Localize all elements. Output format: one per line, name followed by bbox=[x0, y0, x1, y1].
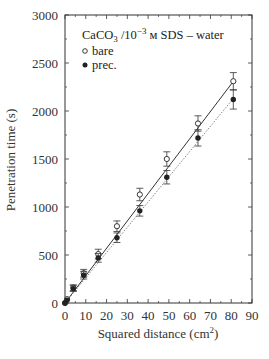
fit-line-bare bbox=[65, 81, 233, 303]
x-tick-label: 10 bbox=[79, 308, 92, 323]
x-tick-label: 30 bbox=[121, 308, 134, 323]
data-point bbox=[113, 221, 120, 232]
y-tick-label: 2000 bbox=[32, 104, 58, 119]
x-tick-label: 20 bbox=[100, 308, 113, 323]
filled-circle-marker-icon bbox=[81, 272, 86, 277]
data-point bbox=[113, 233, 120, 243]
open-circle-marker-icon bbox=[114, 224, 119, 229]
x-tick-label: 70 bbox=[204, 308, 217, 323]
x-axis-title: Squared distance (cm2) bbox=[98, 325, 219, 341]
data-point bbox=[230, 73, 237, 90]
legend-label-prec: prec. bbox=[92, 58, 117, 72]
filled-circle-marker-icon bbox=[164, 175, 169, 180]
y-tick-label: 1000 bbox=[32, 200, 58, 215]
data-point bbox=[136, 188, 143, 200]
data-point bbox=[194, 130, 201, 146]
x-tick-label: 90 bbox=[246, 308, 259, 323]
data-point bbox=[230, 90, 237, 109]
y-tick-label: 2500 bbox=[32, 56, 58, 71]
filled-circle-marker-icon bbox=[114, 235, 119, 240]
y-axis-title: Penetration time (s) bbox=[3, 109, 18, 212]
legend-open-circle-icon bbox=[83, 49, 88, 54]
x-tick-label: 40 bbox=[142, 308, 155, 323]
chart: 050010001500200025003000 010203040506070… bbox=[0, 0, 269, 359]
x-tick-label: 0 bbox=[62, 308, 69, 323]
filled-circle-marker-icon bbox=[96, 255, 101, 260]
open-circle-marker-icon bbox=[195, 121, 200, 126]
legend-filled-circle-icon bbox=[83, 63, 88, 68]
y-tick-labels: 050010001500200025003000 bbox=[32, 8, 58, 311]
data-points bbox=[62, 73, 237, 306]
open-circle-marker-icon bbox=[137, 192, 142, 197]
x-tick-label: 80 bbox=[225, 308, 238, 323]
open-circle-marker-icon bbox=[164, 156, 169, 161]
fit-line-prec bbox=[65, 98, 233, 303]
legend-label-bare: bare bbox=[92, 44, 114, 58]
y-tick-label: 3000 bbox=[32, 8, 58, 23]
legend: CaCO3 /10−3 м SDS – water bare prec. bbox=[82, 26, 225, 72]
fit-lines bbox=[65, 81, 233, 303]
chart-title: CaCO3 /10−3 м SDS – water bbox=[82, 26, 225, 44]
x-tick-label: 60 bbox=[183, 308, 196, 323]
data-point bbox=[64, 297, 69, 302]
x-tick-label: 50 bbox=[162, 308, 175, 323]
data-point bbox=[194, 116, 201, 131]
y-tick-label: 1500 bbox=[32, 152, 58, 167]
filled-circle-marker-icon bbox=[64, 297, 69, 302]
y-tick-label: 0 bbox=[52, 296, 59, 311]
filled-circle-marker-icon bbox=[71, 286, 76, 291]
filled-circle-marker-icon bbox=[231, 97, 236, 102]
x-tick-labels: 0102030405060708090 bbox=[62, 308, 259, 323]
open-circle-marker-icon bbox=[231, 79, 236, 84]
data-point bbox=[163, 152, 170, 166]
filled-circle-marker-icon bbox=[195, 135, 200, 140]
y-tick-label: 500 bbox=[39, 248, 59, 263]
filled-circle-marker-icon bbox=[137, 208, 142, 213]
